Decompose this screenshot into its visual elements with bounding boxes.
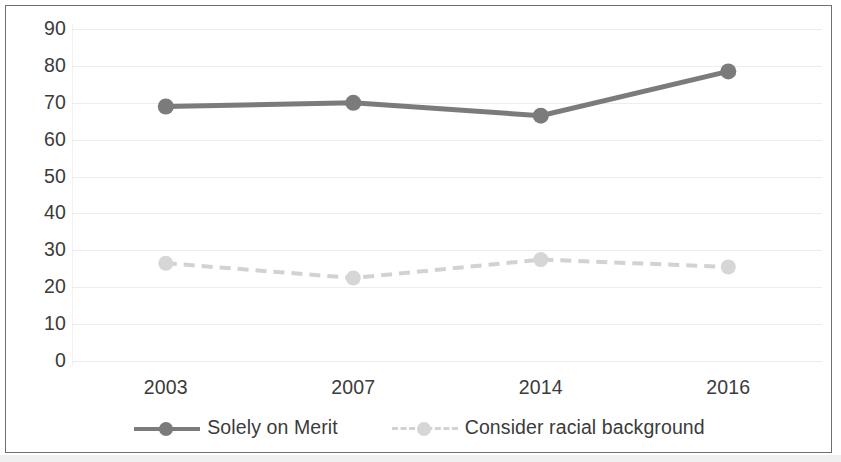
chart-container: 0102030405060708090 2003200720142016 Sol…: [5, 5, 832, 453]
x-axis-tick-label: 2007: [308, 378, 398, 398]
series-line: [166, 71, 729, 115]
x-axis-tick-label: 2016: [683, 378, 773, 398]
chart-legend: Solely on MeritConsider racial backgroun…: [6, 418, 833, 438]
legend-item-label: Consider racial background: [465, 418, 705, 438]
data-point-marker: [721, 259, 736, 274]
x-axis-tick-label: 2014: [496, 378, 586, 398]
bottom-edge-strip: [0, 455, 841, 462]
data-point-marker: [345, 95, 361, 111]
series-line: [166, 260, 729, 278]
data-point-marker: [720, 63, 736, 79]
legend-item[interactable]: Consider racial background: [392, 418, 705, 438]
plot-area: 0102030405060708090 2003200720142016 Sol…: [6, 6, 833, 454]
legend-item[interactable]: Solely on Merit: [134, 418, 337, 438]
legend-item-label: Solely on Merit: [207, 418, 337, 438]
legend-marker-dot: [159, 422, 173, 436]
data-point-marker: [158, 99, 174, 115]
dashed-line-with-dot-icon: [392, 419, 458, 437]
data-point-marker: [158, 256, 173, 271]
legend-marker-dot: [417, 422, 431, 436]
data-point-marker: [533, 252, 548, 267]
data-point-marker: [346, 271, 361, 286]
data-point-marker: [533, 108, 549, 124]
x-axis-tick-label: 2003: [121, 378, 211, 398]
solid-line-with-dot-icon: [134, 419, 200, 437]
